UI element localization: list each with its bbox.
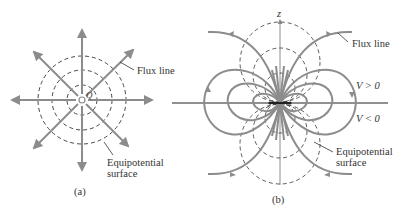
equipotential-label-b-2: surface xyxy=(336,157,366,168)
flux-line-label-a: Flux line xyxy=(137,65,175,76)
equipotential-label-a-2: surface xyxy=(107,168,137,179)
caption-b: (b) xyxy=(272,194,284,205)
charge-label: Q xyxy=(86,90,93,101)
figure-canvas xyxy=(0,0,404,215)
panel-a-point-charge xyxy=(12,30,152,170)
z-axis-label: z xyxy=(277,8,281,19)
caption-a: (a) xyxy=(74,186,86,197)
flux-leader-b xyxy=(338,33,348,42)
equipotential-leader-b xyxy=(314,142,333,152)
charge-point xyxy=(79,97,85,103)
v-negative-label: V < 0 xyxy=(356,113,380,124)
flux-line-label-b: Flux line xyxy=(352,38,390,49)
equipotential-label-a-1: Equipotential xyxy=(107,157,164,168)
equipotential-leader xyxy=(104,142,113,155)
v-positive-label: V > 0 xyxy=(356,80,380,91)
equipotential-label-b-1: Equipotential xyxy=(336,146,393,157)
flux-leader xyxy=(120,62,134,70)
